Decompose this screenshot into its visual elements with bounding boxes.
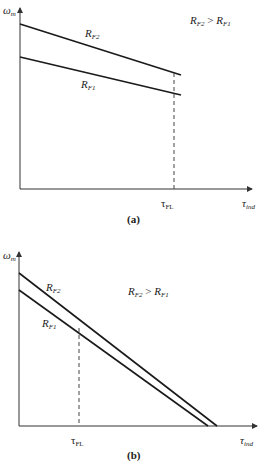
torque-speed-diagram: ωm τind τFL RF2 RF1 RF2 > RF1 (a) ωm τin… bbox=[0, 0, 268, 463]
x-axis-label: τind bbox=[240, 434, 253, 448]
relation-label: RF2 > RF1 bbox=[189, 14, 231, 28]
rf2-label: RF2 bbox=[45, 281, 61, 295]
curve-rf1 bbox=[20, 57, 181, 95]
rf1-label: RF1 bbox=[41, 317, 57, 331]
rf1-label: RF1 bbox=[80, 78, 96, 92]
caption-a: (a) bbox=[127, 213, 140, 226]
full-load-torque-label: τFL bbox=[161, 197, 174, 211]
y-axis-label: ωm bbox=[3, 4, 16, 18]
y-axis-label: ωm bbox=[3, 249, 16, 263]
figure-b: ωm τind τFL RF2 RF1 RF2 > RF1 (b) bbox=[3, 249, 257, 462]
rf2-label: RF2 bbox=[84, 27, 100, 41]
curve-rf2 bbox=[20, 24, 181, 75]
full-load-torque-label: τFL bbox=[71, 434, 84, 448]
curve-rf1 bbox=[19, 290, 208, 426]
caption-b: (b) bbox=[127, 449, 141, 462]
relation-label: RF2 > RF1 bbox=[127, 285, 169, 299]
x-axis-label: τind bbox=[242, 197, 255, 211]
figure-a: ωm τind τFL RF2 RF1 RF2 > RF1 (a) bbox=[3, 4, 255, 226]
curve-rf2 bbox=[19, 273, 217, 426]
